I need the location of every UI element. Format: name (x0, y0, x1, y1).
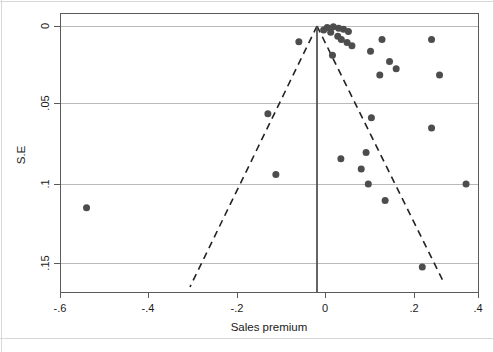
data-point (393, 65, 400, 72)
data-point (376, 71, 383, 78)
y-tick-label: .15 (39, 255, 51, 270)
data-point (272, 171, 279, 178)
y-axis-title: S.E (15, 145, 27, 164)
data-point (345, 28, 352, 35)
x-tick-label: .2 (409, 302, 418, 314)
data-point (367, 48, 374, 55)
x-tick-label: -.2 (231, 302, 244, 314)
x-tick-label: -.6 (54, 302, 67, 314)
x-axis-tick-labels: -.6 -.4 -.2 0 .2 .4 (54, 302, 483, 314)
plot-area-background (60, 13, 478, 287)
data-point (368, 114, 375, 121)
data-point (436, 71, 443, 78)
y-tick-label: 0 (39, 23, 51, 29)
data-point (363, 149, 370, 156)
data-point (358, 165, 365, 172)
data-point (365, 181, 372, 188)
x-tick-label: 0 (322, 302, 328, 314)
x-axis-ticks (60, 292, 478, 298)
y-axis-ticks (54, 26, 60, 263)
data-point (382, 197, 389, 204)
data-point (386, 58, 393, 65)
data-point (295, 38, 302, 45)
data-point (327, 29, 334, 36)
y-tick-label: .05 (39, 95, 51, 110)
data-point (264, 110, 271, 117)
data-point (428, 36, 435, 43)
data-point (463, 181, 470, 188)
data-point (329, 52, 336, 59)
x-axis-title: Sales premium (231, 321, 308, 333)
y-axis-tick-labels: 0 .05 .1 .15 (39, 23, 51, 271)
data-point (337, 155, 344, 162)
data-point (348, 42, 355, 49)
x-tick-label: .4 (473, 302, 482, 314)
y-tick-label: .1 (39, 179, 51, 188)
data-point (320, 26, 327, 33)
data-point (83, 204, 90, 211)
x-tick-label: -.4 (142, 302, 155, 314)
funnel-plot-figure: 0 .05 .1 .15 S.E -.6 -.4 -.2 0 .2 .4 Sal… (0, 0, 494, 352)
funnel-plot-svg: 0 .05 .1 .15 S.E -.6 -.4 -.2 0 .2 .4 Sal… (0, 0, 494, 352)
data-point (428, 124, 435, 131)
data-point (379, 36, 386, 43)
data-point (419, 263, 426, 270)
